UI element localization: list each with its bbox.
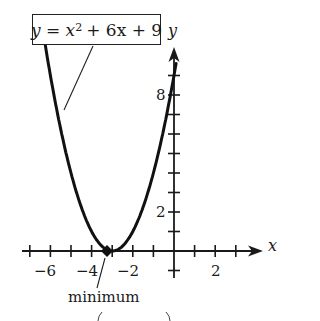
equation-x: x	[66, 20, 76, 40]
minimum-label: minimum	[68, 290, 140, 305]
equation-rest: + 6x + 9	[86, 20, 162, 40]
x-tick-label-neg2: −2	[117, 264, 139, 279]
equation-exponent: 2	[75, 21, 82, 34]
x-axis-label: x	[268, 238, 277, 254]
x-tick-label-neg4: −4	[76, 264, 98, 279]
equation-lhs: y	[31, 20, 41, 40]
y-axis-label: y	[168, 23, 177, 39]
equation-callout-line	[64, 46, 93, 110]
x-tick-label-neg6: −6	[34, 264, 56, 279]
cutoff-right-paren	[166, 312, 170, 321]
equals-sign: =	[41, 20, 66, 40]
equation-box: y = x 2 + 6x + 9	[32, 14, 161, 45]
x-tick-label-2: 2	[211, 264, 221, 279]
minimum-leader-line	[97, 258, 105, 288]
y-tick-label-2: 2	[156, 205, 166, 220]
cutoff-left-paren	[98, 312, 102, 321]
y-tick-label-8: 8	[156, 88, 166, 103]
